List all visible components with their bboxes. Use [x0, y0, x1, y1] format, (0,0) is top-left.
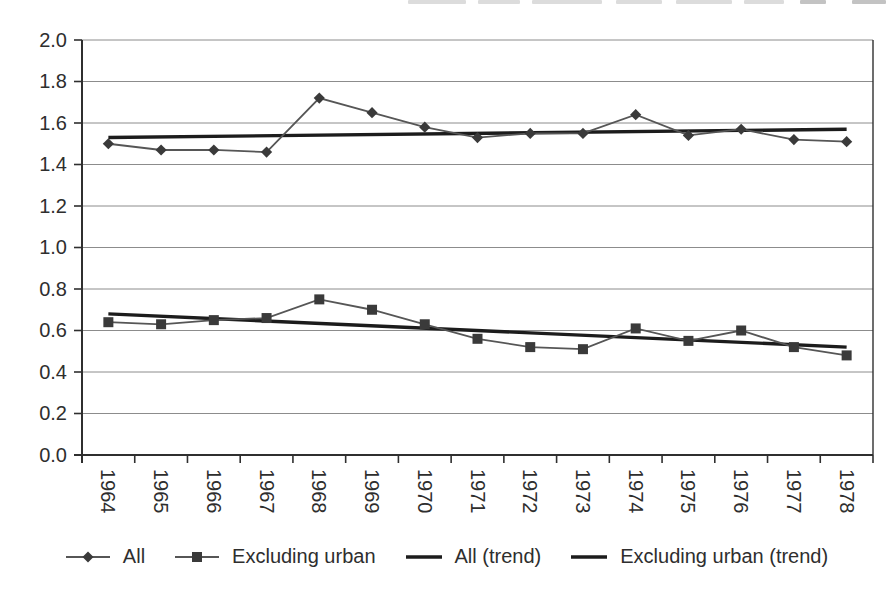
- x-tick-label: 1971: [467, 469, 489, 514]
- y-tick-label: 1.0: [39, 236, 67, 258]
- diamond-marker-all-1964: [103, 138, 114, 149]
- y-tick-label: 0.8: [39, 278, 67, 300]
- trend-line-swatch-icon: [571, 549, 607, 565]
- diamond-marker-all-1978: [841, 136, 852, 147]
- x-tick-label: 1975: [677, 469, 699, 514]
- x-tick-label: 1969: [361, 469, 383, 514]
- diamond-marker-all-1973: [577, 128, 588, 139]
- x-tick-label: 1964: [97, 469, 119, 514]
- x-tick-label: 1968: [308, 469, 330, 514]
- series-line-excluding-urban: [108, 299, 846, 355]
- diamond-marker-all-1965: [156, 144, 167, 155]
- x-tick-label: 1977: [783, 469, 805, 514]
- square-marker-excluding-urban-1978: [842, 350, 852, 360]
- scanned-book-page: 0.00.20.40.60.81.01.21.41.61.82.01964196…: [0, 0, 894, 591]
- x-tick-label: 1978: [836, 469, 858, 514]
- square-marker-excluding-urban-1975: [683, 336, 693, 346]
- square-marker-excluding-urban-1971: [473, 334, 483, 344]
- square-marker-excluding-urban-1974: [631, 323, 641, 333]
- x-tick-label: 1967: [256, 469, 278, 514]
- legend-item-all-trend: All (trend): [406, 545, 542, 568]
- square-marker-excluding-urban-1972: [525, 342, 535, 352]
- y-tick-label: 1.2: [39, 195, 67, 217]
- x-tick-label: 1970: [414, 469, 436, 514]
- square-marker-excluding-urban-1977: [789, 342, 799, 352]
- diamond-marker-all-1972: [525, 128, 536, 139]
- y-tick-label: 1.6: [39, 112, 67, 134]
- x-tick-label: 1965: [150, 469, 172, 514]
- x-tick-label: 1973: [572, 469, 594, 514]
- square-marker-excluding-urban-1976: [736, 326, 746, 336]
- square-marker-excluding-urban-1965: [156, 319, 166, 329]
- square-marker-excluding-urban-1967: [262, 313, 272, 323]
- square-marker-excluding-urban-1966: [209, 315, 219, 325]
- square-marker-excluding-urban-1969: [367, 305, 377, 315]
- square-marker-excluding-urban-1964: [103, 317, 113, 327]
- y-tick-label: 1.8: [39, 70, 67, 92]
- square-series-swatch-icon: [175, 549, 219, 565]
- legend-label-excluding-urban-trend: Excluding urban (trend): [620, 545, 828, 568]
- legend-label-all-trend: All (trend): [455, 545, 542, 568]
- diamond-marker-all-1976: [736, 124, 747, 135]
- y-tick-label: 1.4: [39, 153, 67, 175]
- diamond-marker-all-1966: [208, 144, 219, 155]
- legend-item-all: All: [66, 545, 145, 568]
- diamond-series-swatch-icon: [66, 549, 110, 565]
- diamond-marker-all-1969: [366, 107, 377, 118]
- y-tick-label: 0.2: [39, 402, 67, 424]
- x-tick-label: 1976: [730, 469, 752, 514]
- y-tick-label: 0.4: [39, 361, 67, 383]
- diamond-marker-all-1974: [630, 109, 641, 120]
- square-marker-excluding-urban-1968: [314, 294, 324, 304]
- y-tick-label: 0.0: [39, 444, 67, 466]
- legend-label-excluding-urban: Excluding urban: [232, 545, 375, 568]
- x-tick-label: 1966: [203, 469, 225, 514]
- series-line-all: [108, 98, 846, 152]
- x-tick-label: 1972: [519, 469, 541, 514]
- y-tick-label: 2.0: [39, 29, 67, 51]
- square-marker-excluding-urban-1970: [420, 319, 430, 329]
- diamond-marker-all-1977: [788, 134, 799, 145]
- chart-legend: All Excluding urban All (trend) Excl: [0, 545, 894, 568]
- legend-label-all: All: [123, 545, 145, 568]
- chart-plot-area: 0.00.20.40.60.81.01.21.41.61.82.01964196…: [0, 0, 894, 540]
- y-tick-label: 0.6: [39, 319, 67, 341]
- square-marker-excluding-urban-1973: [578, 344, 588, 354]
- legend-item-excluding-urban-trend: Excluding urban (trend): [571, 545, 828, 568]
- x-tick-label: 1974: [625, 469, 647, 514]
- legend-item-excluding-urban: Excluding urban: [175, 545, 375, 568]
- trend-line-swatch-icon: [406, 549, 442, 565]
